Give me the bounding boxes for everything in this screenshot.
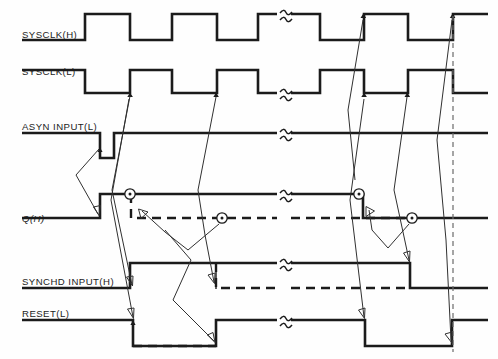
arrow-clk2-to-reset-alt-head [208, 333, 216, 343]
arrow-clk2-to-reset-alt [165, 230, 214, 341]
signal-row-reset-l: RESET(L) [22, 308, 488, 347]
q-set-node-dot-1 [129, 193, 132, 196]
timing-diagram-figure: SYSCLK(H) SYSCLK(L) ASYN INPUT(L) Q(H) [0, 0, 498, 359]
timing-diagram-canvas: SYSCLK(H) SYSCLK(L) ASYN INPUT(L) Q(H) [0, 0, 498, 359]
signal-row-sysclk-h: SYSCLK(H) [22, 10, 488, 40]
signal-row-synchd-input-h: SYNCHD INPUT(H) [22, 259, 488, 289]
signal-row-asyn-input-l: ASYN INPUT(L) [22, 121, 488, 158]
waveform-asyn-input-l [22, 133, 488, 158]
arrow-clk4-to-synchd-head [404, 251, 411, 262]
time-break-asyn-input [280, 129, 292, 140]
time-break-sysclk-h [280, 10, 292, 21]
signal-label-reset-l: RESET(L) [22, 308, 69, 319]
waveform-sysclk-h [22, 14, 488, 40]
q-alt-node-dot-1 [221, 217, 224, 220]
waveform-synchd-input-h-alternate [216, 263, 410, 288]
signal-label-synchd-input-h: SYNCHD INPUT(H) [22, 276, 114, 287]
arrow-clk1-to-reset-head [128, 308, 135, 319]
arrow-asyn-to-q [76, 149, 99, 214]
arrow-clk5-to-reset-rise [437, 20, 452, 340]
signal-label-sysclk-h: SYSCLK(H) [22, 29, 77, 40]
time-break-sysclk-l [280, 89, 292, 100]
signal-label-asyn-input-l: ASYN INPUT(L) [22, 121, 97, 132]
time-break-q-h [280, 190, 292, 201]
signal-row-sysclk-l: SYSCLK(L) [22, 66, 488, 101]
arrow-clk2-to-synchd-alt [198, 97, 216, 282]
time-break-synchd [280, 259, 292, 270]
q-alt-node-dot-2 [411, 217, 414, 220]
signal-row-q-h: Q(H) [22, 189, 488, 224]
signal-label-sysclk-l: SYSCLK(L) [22, 66, 76, 77]
waveform-sysclk-l [22, 70, 488, 93]
arrow-clk3-to-q [348, 20, 363, 180]
arrow-clk4-to-synchd [394, 97, 409, 260]
waveform-q-h [22, 194, 488, 218]
arrow-qalt2-to-qdash [369, 210, 409, 248]
time-break-reset [280, 316, 292, 327]
waveform-reset-l [22, 320, 488, 346]
causality-arrows [76, 20, 452, 343]
q-set-node-dot-2 [358, 193, 361, 196]
